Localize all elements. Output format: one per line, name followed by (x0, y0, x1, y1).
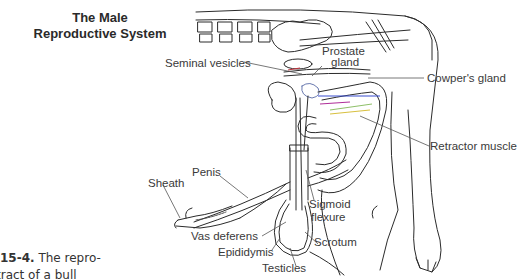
title-line-1: The Male (0, 10, 200, 26)
scrotum-shape (274, 200, 312, 256)
label-epididymis: Epididymis (218, 246, 274, 259)
leader-seminal-vesicles (244, 62, 302, 74)
label-sigmoid-flexure-1: Sigmoid (309, 198, 351, 211)
label-penis: Penis (192, 166, 221, 179)
title-line-2: Reproductive System (0, 26, 200, 42)
caption-text-2: tract of a bull (0, 268, 77, 280)
label-sheath: Sheath (148, 177, 184, 190)
figure-caption: 15-4. The repro- (0, 251, 101, 265)
label-cowpers-gland: Cowper's gland (427, 72, 506, 85)
leader-prostate (312, 66, 322, 76)
label-seminal-vesicles: Seminal vesicles (165, 57, 251, 70)
leader-penis (220, 176, 248, 198)
diagram-title: The Male Reproductive System (0, 10, 200, 42)
vertebrae (198, 20, 332, 52)
label-retractor-muscle: Retractor muscle (430, 140, 517, 153)
back-outline (196, 10, 432, 60)
label-testicles: Testicles (262, 262, 306, 275)
figure-number: 15-4. (0, 251, 35, 265)
bladder (268, 82, 296, 112)
label-sigmoid-flexure-2: flexure (311, 211, 346, 224)
label-vas-deferens: Vas deferens (191, 230, 258, 243)
label-prostate-gland-2: gland (331, 56, 359, 69)
label-scrotum: Scrotum (314, 236, 357, 249)
caption-text-1: The repro- (38, 251, 100, 265)
penis-shaft (194, 182, 290, 222)
